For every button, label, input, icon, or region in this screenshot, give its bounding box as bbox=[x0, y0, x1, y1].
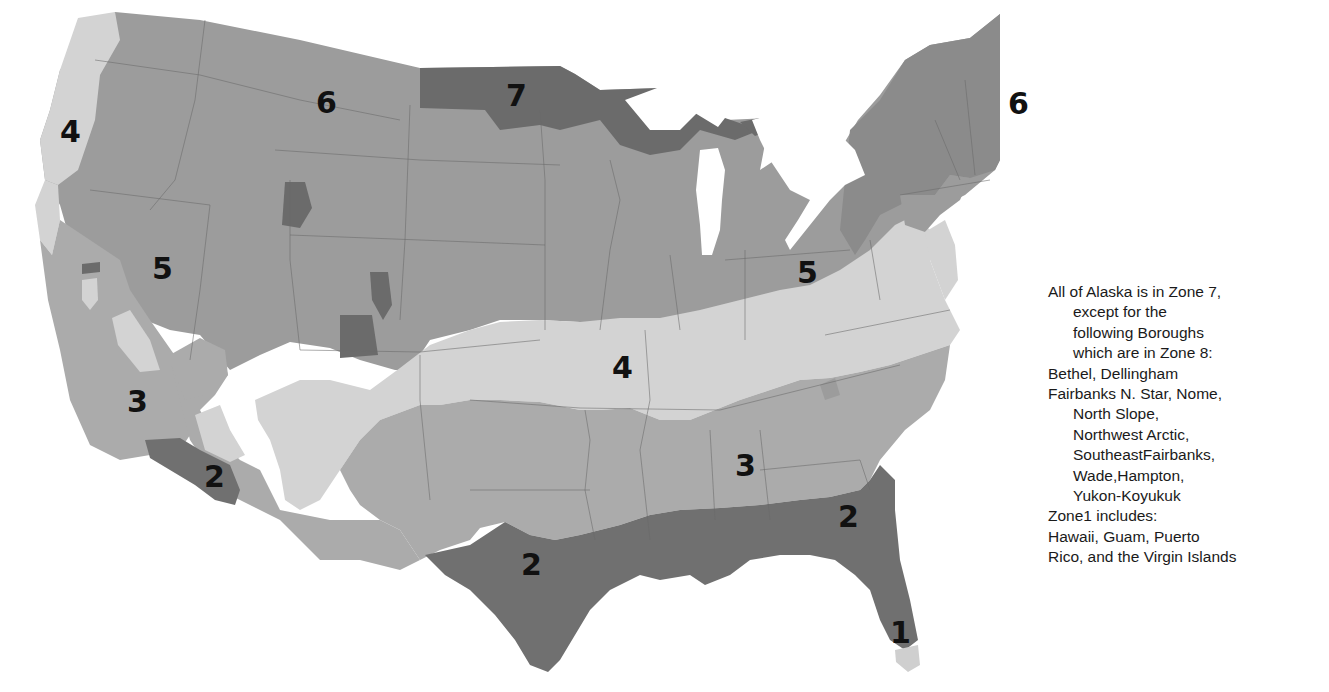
zone-label-3-west: 3 bbox=[127, 384, 148, 419]
zone-label-4-west: 4 bbox=[60, 114, 81, 149]
note-line: SoutheastFairbanks, bbox=[1048, 445, 1328, 465]
zone-label-5-east: 5 bbox=[797, 255, 818, 290]
zone-label-5-west: 5 bbox=[152, 251, 173, 286]
note-line: Bethel, Dellingham bbox=[1048, 364, 1328, 384]
zone-label-2-texas: 2 bbox=[521, 547, 542, 582]
note-line: Hawaii, Guam, Puerto bbox=[1048, 527, 1328, 547]
climate-zone-map: 4 6 7 5 5 4 3 3 2 2 2 1 bbox=[0, 0, 1000, 692]
note-line: which are in Zone 8: bbox=[1048, 343, 1328, 363]
note-line: following Boroughs bbox=[1048, 323, 1328, 343]
zone-label-6-northwest: 6 bbox=[316, 85, 337, 120]
zone-label-6-northeast: 6 bbox=[1008, 86, 1029, 121]
zone-label-4-central: 4 bbox=[612, 350, 633, 385]
note-line: Wade,Hampton, bbox=[1048, 466, 1328, 486]
zone-label-2-florida: 2 bbox=[838, 499, 859, 534]
zone-label-7-north: 7 bbox=[506, 78, 527, 113]
zone-7-california-strip bbox=[82, 262, 100, 274]
zone-label-2-southwest: 2 bbox=[204, 459, 225, 494]
zone-label-3-southeast: 3 bbox=[735, 448, 756, 483]
note-line: All of Alaska is in Zone 7, bbox=[1048, 282, 1328, 302]
alaska-hawaii-zone-note: All of Alaska is in Zone 7, except for t… bbox=[1048, 282, 1328, 568]
zone-label-1-florida: 1 bbox=[890, 615, 911, 650]
note-line: North Slope, bbox=[1048, 404, 1328, 424]
note-line: Rico, and the Virgin Islands bbox=[1048, 547, 1328, 567]
note-line: Fairbanks N. Star, Nome, bbox=[1048, 384, 1328, 404]
note-line: Yukon-Koyukuk bbox=[1048, 486, 1328, 506]
note-line: except for the bbox=[1048, 302, 1328, 322]
note-line: Northwest Arctic, bbox=[1048, 425, 1328, 445]
note-line: Zone1 includes: bbox=[1048, 506, 1328, 526]
